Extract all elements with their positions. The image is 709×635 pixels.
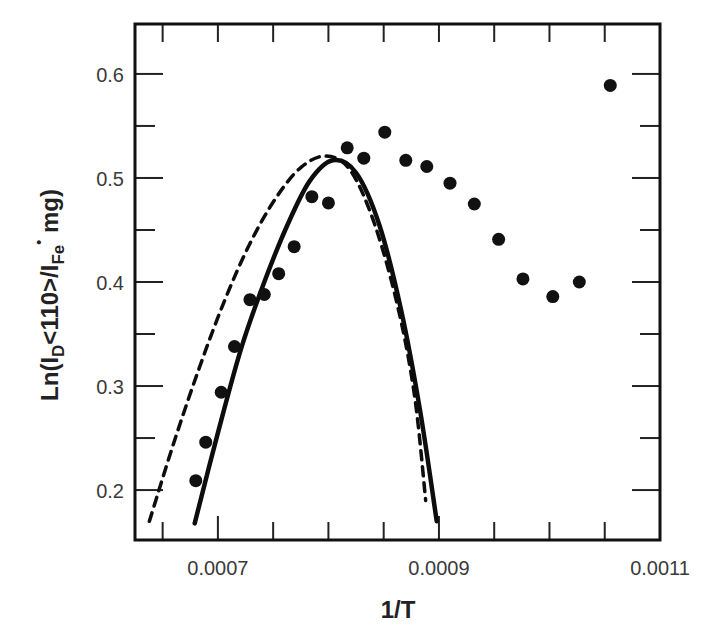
data-point bbox=[516, 272, 529, 285]
y-tick-label: 0.2 bbox=[96, 480, 124, 502]
data-point bbox=[357, 152, 370, 165]
data-point bbox=[189, 474, 202, 487]
data-point bbox=[272, 267, 285, 280]
data-point bbox=[492, 233, 505, 246]
y-tick-label: 0.6 bbox=[96, 64, 124, 86]
data-point bbox=[444, 177, 457, 190]
data-point bbox=[199, 436, 212, 449]
data-point bbox=[420, 160, 433, 173]
data-point bbox=[215, 386, 228, 399]
data-point bbox=[468, 197, 481, 210]
data-point bbox=[546, 290, 559, 303]
data-point bbox=[243, 293, 256, 306]
data-point bbox=[322, 196, 335, 209]
data-point bbox=[228, 340, 241, 353]
data-point bbox=[341, 141, 354, 154]
data-point bbox=[378, 126, 391, 139]
chart: 0.00070.00090.0011 0.20.30.40.50.6 1/T L… bbox=[0, 0, 709, 635]
data-point bbox=[399, 154, 412, 167]
data-point bbox=[258, 288, 271, 301]
data-point bbox=[573, 276, 586, 289]
y-tick-label: 0.4 bbox=[96, 272, 124, 294]
data-point bbox=[288, 240, 301, 253]
y-tick-label: 0.5 bbox=[96, 168, 124, 190]
x-tick-label: 0.0011 bbox=[630, 557, 690, 579]
x-axis-title: 1/T bbox=[381, 596, 416, 623]
y-axis-title: Ln(ID<110>/IFe• mg) bbox=[31, 189, 68, 401]
x-tick-label: 0.0009 bbox=[408, 557, 469, 579]
data-point bbox=[305, 190, 318, 203]
x-tick-label: 0.0007 bbox=[187, 557, 248, 579]
y-tick-label: 0.3 bbox=[96, 376, 124, 398]
data-point bbox=[604, 79, 617, 92]
